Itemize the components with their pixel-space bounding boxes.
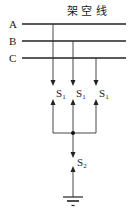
overhead-line-title: 架 空 线 (67, 4, 107, 18)
s1-label-a: S1 (56, 87, 66, 101)
s1-label-c: S1 (99, 87, 109, 101)
s1-label-b: S1 (76, 87, 86, 101)
arrow-down-icon (71, 80, 76, 86)
drop-lines (53, 24, 96, 82)
ground-icon (63, 197, 83, 206)
phase-b-label: B (9, 35, 16, 47)
s1-up-arrows (51, 99, 99, 105)
phase-lines (22, 24, 126, 58)
grounding-switch-diagram: 架 空 线 A B C S1 S1 S1 (0, 0, 134, 218)
arrow-down-icon (51, 80, 56, 86)
s2-label: S2 (77, 156, 87, 170)
arrow-down-icon (94, 80, 99, 86)
junction-dot (71, 131, 75, 135)
arrow-down-icon (71, 152, 76, 158)
lower-bus (53, 104, 96, 154)
phase-c-label: C (9, 52, 16, 64)
s1-down-arrows (51, 80, 99, 86)
s1-labels: S1 S1 S1 (56, 87, 109, 101)
phase-a-label: A (9, 18, 17, 30)
